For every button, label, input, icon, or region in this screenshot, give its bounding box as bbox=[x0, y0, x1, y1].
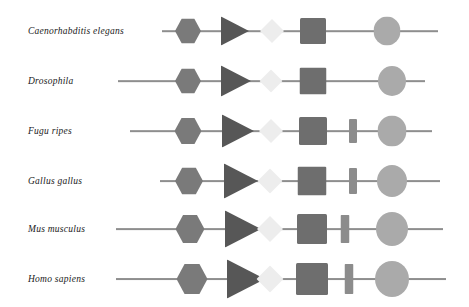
triangle-glyph bbox=[221, 66, 251, 97]
square-glyph bbox=[300, 18, 326, 44]
hexagon-glyph bbox=[176, 215, 205, 243]
hexagon-glyph bbox=[177, 264, 208, 294]
ellipse-glyph bbox=[378, 116, 407, 147]
square-glyph bbox=[299, 117, 327, 145]
diamond-glyph bbox=[260, 70, 283, 93]
bar-glyph bbox=[345, 264, 354, 294]
hexagon-glyph bbox=[175, 69, 201, 94]
diamond-glyph bbox=[257, 266, 284, 293]
ellipse-glyph bbox=[378, 66, 406, 96]
diamond-glyph bbox=[257, 216, 283, 242]
diagram-canvas: Caenorhabditis elegansDrosophilaFugu rip… bbox=[0, 0, 469, 307]
square-glyph bbox=[297, 214, 327, 244]
hexagon-glyph bbox=[175, 118, 202, 144]
species-label: Drosophila bbox=[28, 76, 73, 86]
triangle-glyph bbox=[225, 211, 261, 248]
bar-glyph bbox=[341, 215, 350, 243]
species-label: Fugu ripes bbox=[28, 126, 72, 136]
diamond-glyph bbox=[259, 119, 283, 143]
ellipse-glyph bbox=[375, 261, 409, 297]
species-label: Caenorhabditis elegans bbox=[28, 26, 124, 36]
ellipse-glyph bbox=[374, 17, 401, 46]
square-glyph bbox=[300, 68, 327, 95]
hexagon-glyph bbox=[175, 19, 201, 44]
triangle-glyph bbox=[221, 17, 249, 46]
square-glyph bbox=[296, 263, 328, 295]
triangle-glyph bbox=[224, 164, 258, 199]
hexagon-glyph bbox=[175, 168, 203, 195]
bar-glyph bbox=[349, 119, 357, 143]
ellipse-glyph bbox=[376, 212, 408, 246]
diamond-glyph bbox=[258, 169, 283, 194]
species-label: Gallus gallus bbox=[28, 176, 82, 186]
square-glyph bbox=[298, 167, 327, 196]
diamond-glyph bbox=[260, 19, 284, 43]
bar-glyph bbox=[349, 168, 357, 194]
species-label: Homo sapiens bbox=[28, 274, 85, 284]
ellipse-glyph bbox=[377, 165, 407, 197]
triangle-glyph bbox=[222, 115, 254, 148]
species-label: Mus musculus bbox=[28, 224, 85, 234]
